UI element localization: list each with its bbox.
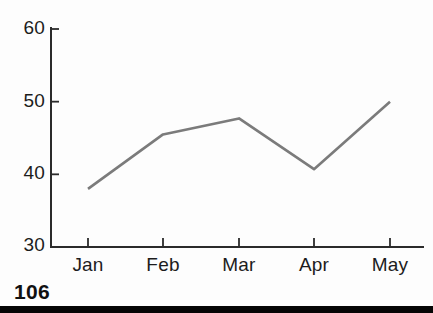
- x-axis-label-apr: Apr: [282, 254, 346, 276]
- y-axis-label-60: 60: [4, 17, 45, 39]
- x-axis-label-mar: Mar: [207, 254, 271, 276]
- x-axis-label-jan: Jan: [56, 254, 120, 276]
- y-axis-label-40: 40: [4, 162, 45, 184]
- axes: [51, 27, 424, 247]
- book-page: 60 50 40 30 Jan Feb Mar Apr May 106: [0, 0, 433, 313]
- x-axis-label-may: May: [358, 254, 422, 276]
- y-axis-label-30: 30: [4, 234, 45, 256]
- data-line: [88, 102, 390, 189]
- page-edge-bar: [0, 306, 433, 313]
- x-axis-label-feb: Feb: [131, 254, 195, 276]
- y-axis-label-50: 50: [4, 90, 45, 112]
- page-number: 106: [14, 280, 50, 304]
